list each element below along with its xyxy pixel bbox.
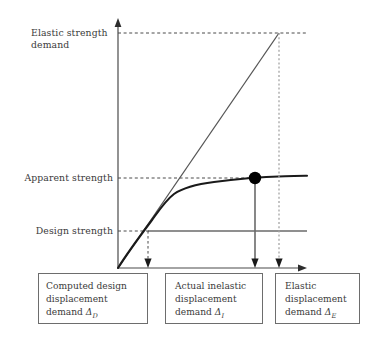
design-strength-label-text: Design strength (36, 225, 113, 236)
design-strength-label: Design strength (13, 225, 113, 237)
apparent-strength-label: Apparent strength (13, 172, 113, 184)
x-axis-arrowhead (298, 265, 307, 272)
y-axis-arrowhead (115, 18, 122, 27)
legend-box-1-line3: demand ΔD (46, 306, 147, 323)
force-displacement-diagram: Elastic strength demand Apparent strengt… (0, 0, 379, 343)
computed-design-displacement-arrowhead (144, 259, 151, 269)
actual-inelastic-displacement-arrowhead (251, 259, 258, 269)
legend-box-elastic-displacement: Elastic displacement demand ΔE (275, 273, 360, 324)
legend-box-actual-inelastic-displacement: Actual inelastic displacement demand ΔI (165, 273, 263, 324)
elastic-strength-demand-label-line1: Elastic strength (31, 27, 108, 38)
legend-box-3-line3: demand ΔE (285, 306, 359, 323)
legend-box-3-line2: displacement (285, 293, 359, 306)
inelastic-response-marker (249, 172, 261, 184)
apparent-strength-label-text: Apparent strength (24, 172, 113, 183)
elastic-strength-demand-label-line2: demand (31, 39, 69, 50)
legend-box-2-line1: Actual inelastic (175, 280, 262, 293)
legend-box-computed-design-displacement: Computed design displacement demand ΔD (38, 273, 148, 324)
legend-box-3-subscript: E (331, 312, 336, 320)
legend-box-2-line3: demand ΔI (175, 306, 262, 323)
legend-box-3-demand-text: demand (285, 307, 325, 317)
legend-box-1-line2: displacement (46, 293, 147, 306)
legend-box-2-line2: displacement (175, 293, 262, 306)
legend-box-2-subscript: I (221, 312, 224, 320)
elastic-strength-demand-label: Elastic strength demand (31, 27, 115, 51)
elastic-displacement-arrowhead (275, 259, 282, 269)
legend-box-2-demand-text: demand (175, 307, 215, 317)
legend-box-1-line1: Computed design (46, 280, 147, 293)
legend-box-1-subscript: D (92, 312, 97, 320)
legend-box-3-line1: Elastic (285, 280, 359, 293)
legend-box-1-demand-text: demand (46, 307, 86, 317)
